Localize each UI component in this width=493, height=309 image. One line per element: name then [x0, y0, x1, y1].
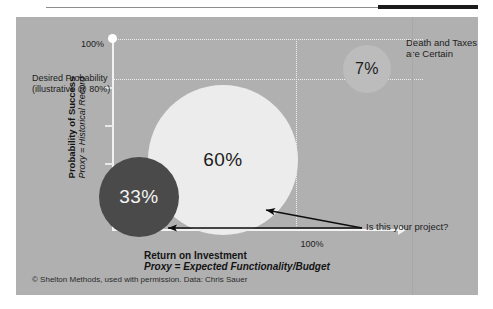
death-taxes-line1: Death and Taxes	[406, 37, 477, 48]
x-axis-tick-label-100: 100%	[288, 239, 336, 249]
y-axis-title: Probability of Success Proxy = Historica…	[66, 58, 87, 198]
y-axis-title-sub: Proxy = Historical Record	[77, 58, 87, 198]
y-axis-tick-label-100: 100%	[54, 39, 104, 49]
x-axis-title-sub: Proxy = Expected Functionality/Budget	[144, 261, 330, 272]
panel-seam	[412, 17, 413, 295]
chart-panel: 7% 60% 33% 100% 100% Desired Probability…	[16, 17, 478, 295]
credit-line: © Shelton Methods, used with permission.…	[32, 275, 247, 284]
x-axis-title-main: Return on Investment	[144, 250, 330, 261]
x-axis-title: Return on Investment Proxy = Expected Fu…	[144, 250, 330, 272]
death-taxes-line2: are Certain	[406, 48, 453, 59]
annotation-is-this-your-project: Is this your project?	[366, 221, 448, 232]
annotation-death-and-taxes: Death and Taxes are Certain	[406, 37, 486, 59]
y-axis-title-main: Probability of Success	[66, 58, 77, 198]
plot-area: 7% 60% 33% 100% 100% Desired Probability…	[16, 17, 478, 295]
header-rule-bold	[378, 5, 478, 9]
annotation-desired-probability: Desired Probability (illustrative @ 80%)	[32, 73, 144, 95]
